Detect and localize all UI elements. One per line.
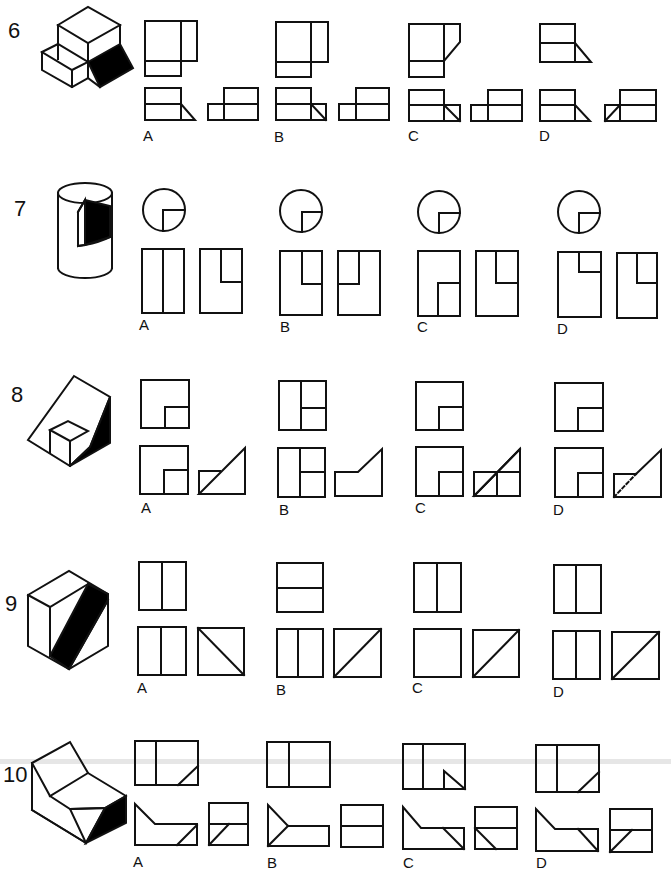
views-6b bbox=[276, 22, 389, 120]
isometric-object-8 bbox=[28, 376, 110, 466]
views-8a bbox=[140, 380, 245, 494]
isometric-object-7 bbox=[58, 183, 112, 278]
views-7b bbox=[280, 190, 380, 315]
isometric-object-9 bbox=[28, 571, 108, 669]
views-6c bbox=[409, 24, 522, 121]
views-7a bbox=[142, 189, 242, 313]
views-10a bbox=[135, 741, 248, 845]
views-10c bbox=[403, 744, 517, 849]
views-9c bbox=[414, 563, 519, 677]
views-7d bbox=[558, 191, 657, 318]
views-6d bbox=[540, 24, 656, 121]
views-10d bbox=[536, 745, 652, 852]
views-9d bbox=[553, 565, 659, 679]
exercise-drawings bbox=[0, 0, 671, 882]
views-8c bbox=[416, 382, 520, 496]
views-7c bbox=[418, 191, 518, 316]
views-6a bbox=[145, 21, 258, 120]
isometric-object-10 bbox=[32, 742, 126, 843]
views-10b bbox=[267, 742, 383, 847]
views-8d bbox=[555, 383, 661, 497]
views-9a bbox=[138, 562, 244, 675]
isometric-object-6 bbox=[42, 7, 133, 87]
views-9b bbox=[277, 563, 381, 677]
views-8b bbox=[278, 381, 382, 497]
